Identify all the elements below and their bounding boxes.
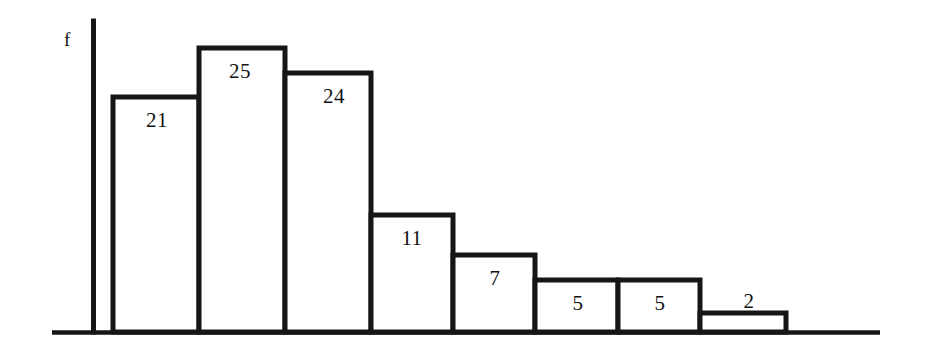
bar-8 xyxy=(700,313,786,332)
bar-2 xyxy=(199,48,285,332)
bars-group xyxy=(113,48,786,332)
bar-label-5: 7 xyxy=(490,266,501,291)
bar-label-8: 2 xyxy=(744,289,755,314)
histogram-canvas xyxy=(0,0,927,363)
bar-3 xyxy=(285,73,371,332)
bar-label-1: 21 xyxy=(146,108,168,133)
histogram-figure: f 21 25 24 11 7 5 5 2 xyxy=(0,0,927,363)
bar-label-6: 5 xyxy=(573,291,584,316)
bar-label-3: 24 xyxy=(323,84,345,109)
bar-label-4: 11 xyxy=(401,226,422,251)
y-axis-label: f xyxy=(64,29,70,51)
bar-label-2: 25 xyxy=(229,59,251,84)
bar-label-7: 5 xyxy=(655,291,666,316)
